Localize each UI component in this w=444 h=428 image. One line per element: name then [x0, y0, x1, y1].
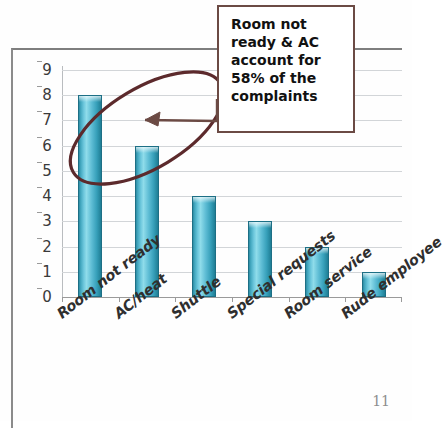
y-axis-tick-label: 8 — [42, 86, 52, 104]
y-axis-tick-label: 0 — [42, 288, 52, 306]
callout-text: Room not ready & AC account for 58% of t… — [231, 16, 345, 106]
bar — [78, 95, 102, 297]
y-axis-tick-label: 7 — [42, 111, 52, 129]
x-axis-tick-mark — [401, 297, 402, 302]
y-axis-tick-mark — [37, 187, 42, 188]
y-axis-tick-mark — [37, 263, 42, 264]
y-axis-tick-mark — [37, 86, 42, 87]
y-axis-tick-mark — [37, 137, 42, 138]
y-axis-tick-mark — [37, 61, 42, 62]
y-axis-tick-label: 4 — [42, 187, 52, 205]
gridline — [62, 171, 402, 172]
page-number: 11 — [372, 393, 390, 409]
callout-box: Room not ready & AC account for 58% of t… — [217, 5, 355, 133]
gridline — [62, 221, 402, 222]
y-axis-tick-label: 1 — [42, 263, 52, 281]
y-axis-tick-label: 3 — [42, 212, 52, 230]
y-axis-tick-label: 5 — [42, 162, 52, 180]
gridline — [62, 196, 402, 197]
y-axis-tick-label: 9 — [42, 61, 52, 79]
y-axis-tick-mark — [37, 111, 42, 112]
y-axis-tick-label: 2 — [42, 238, 52, 256]
y-axis-tick-mark — [37, 238, 42, 239]
y-axis-tick-mark — [37, 162, 42, 163]
y-axis-tick-mark — [37, 212, 42, 213]
y-axis-tick-mark — [37, 288, 42, 289]
y-axis-tick-label: 6 — [42, 137, 52, 155]
gridline — [62, 146, 402, 147]
gridline — [62, 247, 402, 248]
